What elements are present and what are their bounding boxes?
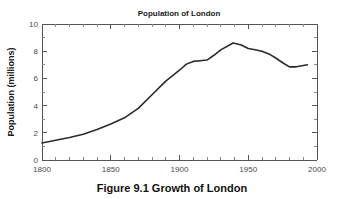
y-tick-label: 6 xyxy=(34,74,39,83)
y-axis-title: Population (millions) xyxy=(6,48,16,137)
population-line-chart: Population of London xyxy=(0,0,337,199)
y-tick-label: 8 xyxy=(34,47,39,56)
figure-container: Population of London xyxy=(0,0,337,199)
y-tick-label: 2 xyxy=(34,129,39,138)
y-tick-label: 0 xyxy=(34,156,39,165)
plot-area-background xyxy=(42,24,317,160)
x-tick-label: 1900 xyxy=(171,165,189,174)
chart-title: Population of London xyxy=(138,9,221,18)
x-tick-label: 2000 xyxy=(308,165,326,174)
x-tick-label: 1850 xyxy=(102,165,120,174)
y-axis-tick-labels: 0 2 4 6 8 10 xyxy=(29,20,38,165)
x-tick-label: 1950 xyxy=(239,165,257,174)
y-tick-label: 10 xyxy=(29,20,38,29)
y-tick-label: 4 xyxy=(34,102,39,111)
x-axis-tick-labels: 1800 1850 1900 1950 2000 xyxy=(33,165,326,174)
figure-caption: Figure 9.1 Growth of London xyxy=(97,182,248,194)
x-tick-label: 1800 xyxy=(33,165,51,174)
